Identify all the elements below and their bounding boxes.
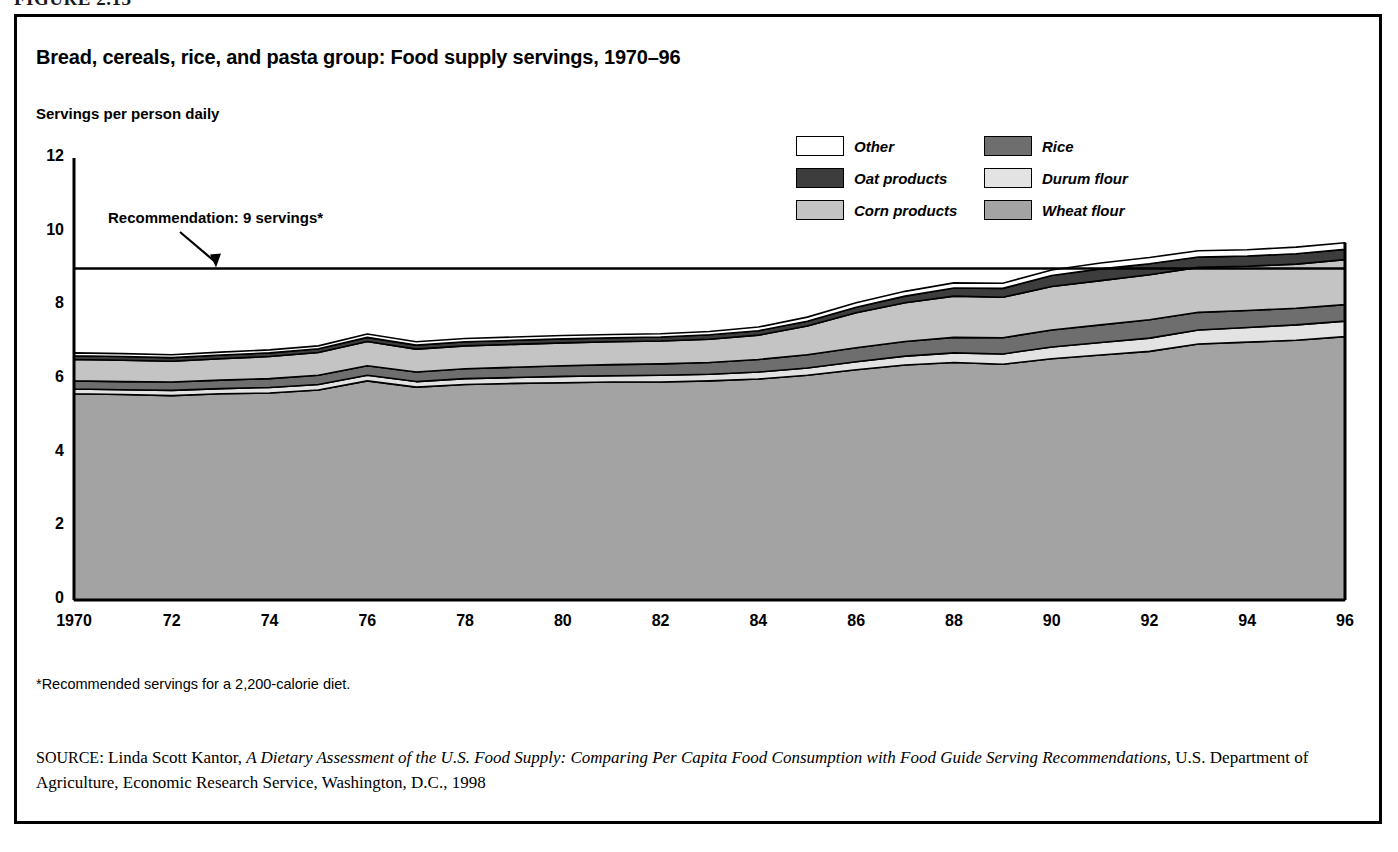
- x-axis-tick-label: 90: [1012, 612, 1092, 630]
- source-author: Linda Scott Kantor,: [108, 748, 246, 767]
- x-axis-tick-label: 96: [1305, 612, 1385, 630]
- y-axis-tick-label: 6: [24, 368, 64, 386]
- chart-title: Bread, cereals, rice, and pasta group: F…: [36, 46, 680, 69]
- y-axis-tick-label: 12: [24, 147, 64, 165]
- legend-label-oat-products: Oat products: [854, 170, 947, 187]
- x-axis-tick-label: 82: [621, 612, 701, 630]
- y-axis-tick-label: 4: [24, 442, 64, 460]
- legend-swatch-wheat-flour: [984, 200, 1032, 220]
- legend-label-wheat-flour: Wheat flour: [1042, 202, 1125, 219]
- source-prefix: SOURCE: [36, 749, 99, 766]
- x-axis-tick-label: 76: [327, 612, 407, 630]
- legend-swatch-rice: [984, 136, 1032, 156]
- legend-label-other: Other: [854, 138, 894, 155]
- legend-column-1: Other Oat products Corn products: [796, 130, 957, 226]
- figure-number-label: FIGURE 2.13: [14, 0, 131, 10]
- source-work-title: A Dietary Assessment of the U.S. Food Su…: [246, 748, 1171, 767]
- legend-swatch-durum-flour: [984, 168, 1032, 188]
- x-axis-tick-label: 74: [230, 612, 310, 630]
- x-axis-tick-label: 84: [718, 612, 798, 630]
- y-axis-tick-label: 8: [24, 294, 64, 312]
- legend-swatch-corn-products: [796, 200, 844, 220]
- legend-column-2: Rice Durum flour Wheat flour: [984, 130, 1128, 226]
- legend-label-corn-products: Corn products: [854, 202, 957, 219]
- figure-page: FIGURE 2.13 Bread, cereals, rice, and pa…: [0, 0, 1398, 852]
- legend-label-rice: Rice: [1042, 138, 1074, 155]
- x-axis-tick-label: 94: [1207, 612, 1287, 630]
- figure-frame: [14, 14, 1382, 824]
- legend-item-durum-flour: Durum flour: [984, 162, 1128, 194]
- x-axis-tick-label: 72: [132, 612, 212, 630]
- x-axis-tick-label: 86: [816, 612, 896, 630]
- x-axis-tick-label: 92: [1109, 612, 1189, 630]
- y-axis-tick-label: 10: [24, 221, 64, 239]
- x-axis-tick-label: 1970: [34, 612, 114, 630]
- legend-swatch-oat-products: [796, 168, 844, 188]
- legend-item-rice: Rice: [984, 130, 1128, 162]
- x-axis-tick-label: 78: [425, 612, 505, 630]
- legend-item-oat-products: Oat products: [796, 162, 957, 194]
- legend-label-durum-flour: Durum flour: [1042, 170, 1128, 187]
- legend-item-wheat-flour: Wheat flour: [984, 194, 1128, 226]
- legend-swatch-other: [796, 136, 844, 156]
- y-axis-tick-label: 0: [24, 589, 64, 607]
- chart-footnote: *Recommended servings for a 2,200-calori…: [36, 676, 350, 692]
- legend-item-other: Other: [796, 130, 957, 162]
- chart-source: SOURCE: Linda Scott Kantor, A Dietary As…: [36, 746, 1326, 795]
- y-axis-title: Servings per person daily: [36, 105, 219, 122]
- y-axis-tick-label: 2: [24, 515, 64, 533]
- legend-item-corn-products: Corn products: [796, 194, 957, 226]
- x-axis-tick-label: 88: [914, 612, 994, 630]
- source-sep: :: [99, 748, 108, 767]
- x-axis-tick-label: 80: [523, 612, 603, 630]
- recommendation-annotation: Recommendation: 9 servings*: [108, 209, 323, 226]
